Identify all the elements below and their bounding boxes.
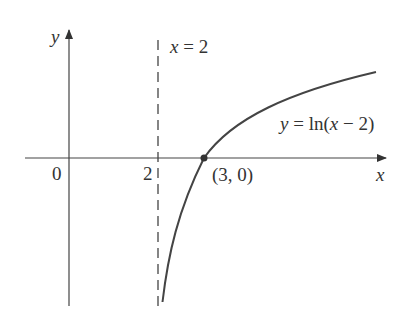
origin-label: 0 xyxy=(52,163,62,184)
x-intercept-point xyxy=(201,155,208,162)
tick-label-2: 2 xyxy=(143,163,153,184)
log-curve xyxy=(163,72,377,302)
curve-label: y = ln(x − 2) xyxy=(278,113,374,135)
x-axis-label: x xyxy=(375,164,385,185)
point-label: (3, 0) xyxy=(212,164,253,186)
y-axis-label: y xyxy=(49,26,60,47)
asymptote-label: x = 2 xyxy=(169,36,208,57)
graph-figure: y x 0 2 x = 2 (3, 0) y = ln(x − 2) xyxy=(0,0,419,326)
